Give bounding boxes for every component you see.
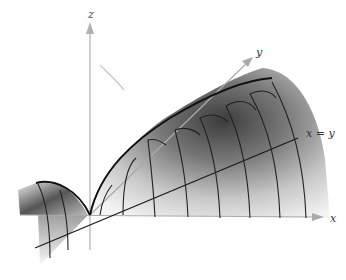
z-axis-label: z xyxy=(87,8,94,21)
surface-diagram: z y x x = y xyxy=(0,0,346,280)
line-label: x = y xyxy=(306,127,335,140)
left-surface xyxy=(18,182,88,265)
y-axis-label: y xyxy=(255,46,263,59)
x-axis-label: x xyxy=(330,212,337,225)
main-surface xyxy=(90,60,346,230)
